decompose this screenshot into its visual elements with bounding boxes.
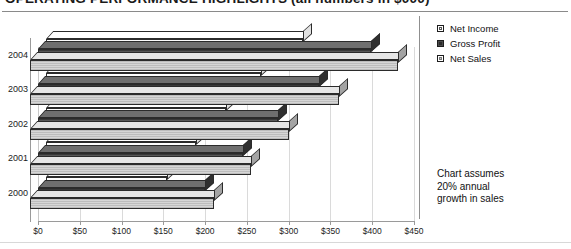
x-tick — [330, 221, 331, 225]
bar-net-sales-2000 — [30, 198, 214, 209]
light-square-icon — [437, 25, 444, 32]
x-tick-label: $450 — [405, 226, 424, 236]
x-tick — [205, 221, 206, 225]
gridline — [330, 47, 331, 222]
plot-right-border — [419, 16, 420, 219]
page-title: OPERATING PERFORMANCE HIGHLIGHTS (all nu… — [5, 0, 430, 6]
bar-top-face — [38, 145, 250, 153]
bar-top-face — [38, 41, 378, 49]
bar-end-cap — [398, 44, 407, 63]
y-tick-label: 2000 — [2, 188, 28, 198]
bar-end-cap — [289, 113, 298, 132]
bar-face — [30, 164, 251, 175]
bar-net-sales-2004 — [30, 60, 398, 71]
x-tick — [122, 221, 123, 225]
y-tick-label: 2004 — [2, 50, 28, 60]
y-tick-label: 2003 — [2, 84, 28, 94]
bar-net-sales-2001 — [30, 164, 251, 175]
bar-top-face — [30, 121, 296, 129]
bar-end-cap — [371, 33, 380, 52]
x-axis-line — [38, 221, 414, 222]
x-tick-label: $150 — [154, 226, 173, 236]
x-tick — [163, 221, 164, 225]
title-divider — [2, 11, 568, 12]
bar-end-cap — [303, 22, 312, 41]
annotation-line-3: growth in sales — [437, 193, 504, 206]
x-tick — [372, 221, 373, 225]
legend-item-label: Gross Profit — [450, 38, 500, 49]
annotation-line-2: 20% annual — [437, 181, 504, 194]
bar-top-face — [38, 110, 285, 118]
bar-face — [30, 129, 289, 140]
bar-top-face — [30, 190, 221, 198]
bar-end-cap — [251, 147, 260, 166]
bar-top-face — [38, 180, 212, 188]
legend-item-label: Net Sales — [450, 53, 491, 64]
gridline — [372, 47, 373, 222]
bar-top-face — [30, 52, 405, 60]
bar-top-face — [46, 31, 311, 39]
legend-item-gross_profit[interactable]: Gross Profit — [437, 37, 500, 50]
chart-annotation: Chart assumes 20% annual growth in sales — [437, 168, 504, 206]
chart-legend: Net IncomeGross ProfitNet Sales — [437, 22, 500, 67]
x-tick-label: $100 — [112, 226, 131, 236]
x-tick-label: $400 — [363, 226, 382, 236]
bar-face — [30, 94, 339, 105]
y-tick-label: 2002 — [2, 119, 28, 129]
bottom-divider — [0, 242, 571, 243]
bar-net-sales-2003 — [30, 94, 339, 105]
legend-item-net_sales[interactable]: Net Sales — [437, 52, 500, 65]
dark-square-icon — [437, 40, 444, 47]
x-tick-label: $350 — [321, 226, 340, 236]
gridline — [414, 47, 415, 222]
x-tick-label: $50 — [73, 226, 87, 236]
x-tick-label: $300 — [279, 226, 298, 236]
y-tick-label: 2001 — [2, 153, 28, 163]
legend-item-label: Net Income — [450, 23, 499, 34]
bar-face — [30, 60, 398, 71]
x-tick — [38, 221, 39, 225]
x-tick — [247, 221, 248, 225]
x-tick — [414, 221, 415, 225]
chart-plot-area: $0$50$100$150$200$250$300$350$400$450 20… — [0, 16, 420, 225]
x-tick-label: $200 — [196, 226, 215, 236]
legend-item-net_income[interactable]: Net Income — [437, 22, 500, 35]
bar-face — [30, 198, 214, 209]
grey-square-icon — [437, 55, 444, 62]
bar-top-face — [38, 76, 326, 84]
bar-top-face — [30, 156, 259, 164]
x-tick — [289, 221, 290, 225]
bar-end-cap — [339, 78, 348, 97]
annotation-line-1: Chart assumes — [437, 168, 504, 181]
x-tick-label: $250 — [237, 226, 256, 236]
x-tick — [80, 221, 81, 225]
bar-top-face — [30, 86, 346, 94]
bar-net-sales-2002 — [30, 129, 289, 140]
bar-end-cap — [214, 182, 223, 201]
x-tick-label: $0 — [33, 226, 42, 236]
